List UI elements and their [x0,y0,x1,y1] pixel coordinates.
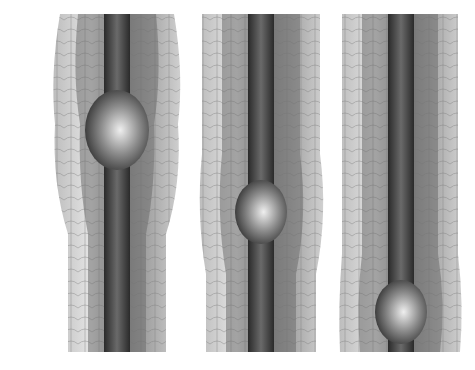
peristalsis-panel-2 [196,14,330,352]
peristalsis-panel-1 [50,14,184,352]
bolus [375,280,427,344]
bolus [85,90,149,170]
tube-illustration [196,14,330,352]
bolus [235,180,287,244]
lumen [104,14,130,352]
tube-illustration [50,14,184,352]
peristalsis-panel-3 [338,14,464,352]
tube-illustration [338,14,464,352]
